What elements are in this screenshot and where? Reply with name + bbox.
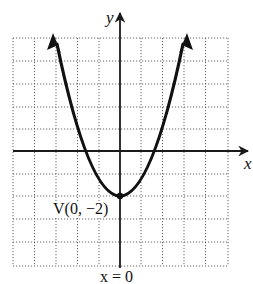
x-axis-label: x: [244, 155, 252, 172]
right-arrow-icon: [179, 33, 193, 53]
vertex-label: V(0, −2): [52, 201, 109, 217]
symmetry-axis-label: x = 0: [100, 269, 133, 284]
parabola-graph: [0, 0, 253, 284]
vertex-point: [117, 193, 123, 199]
y-axis-label: y: [106, 9, 114, 26]
left-arrow-icon: [47, 33, 61, 53]
